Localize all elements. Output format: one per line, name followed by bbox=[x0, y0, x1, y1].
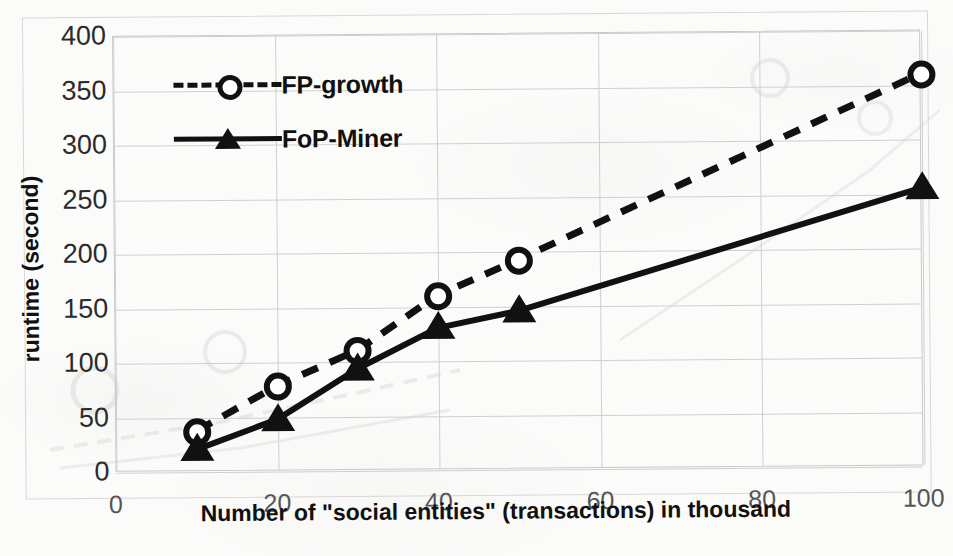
legend-symbol-solid-triangle-icon bbox=[174, 124, 282, 155]
data-point-fop-miner bbox=[341, 352, 375, 380]
data-point-fop-miner bbox=[261, 403, 295, 431]
legend-label-fop-miner: FoP-Miner bbox=[282, 123, 403, 153]
data-point-fop-miner bbox=[421, 311, 455, 339]
y-axis-tick-label: 300 bbox=[62, 131, 107, 158]
data-point-fp-growth bbox=[505, 246, 533, 274]
y-axis-tick-label: 250 bbox=[62, 186, 107, 213]
data-point-fp-growth bbox=[263, 372, 291, 400]
y-axis-tick-label: 100 bbox=[63, 349, 108, 376]
y-axis-tick-label: 50 bbox=[79, 404, 109, 431]
y-axis-tick-label: 200 bbox=[63, 240, 108, 267]
legend-label-fp-growth: FP-growth bbox=[281, 69, 403, 99]
y-axis-title: runtime (second) bbox=[17, 154, 46, 384]
legend-item-fop-miner[interactable]: FoP-Miner bbox=[174, 110, 504, 167]
legend-symbol-dashed-circle-icon bbox=[173, 70, 281, 101]
x-axis-tick-label: 100 bbox=[903, 485, 945, 510]
y-axis-tick-label: 400 bbox=[61, 22, 106, 49]
legend-item-fp-growth[interactable]: FP-growth bbox=[173, 56, 503, 113]
chart-legend: FP-growth FoP-Miner bbox=[173, 56, 504, 167]
plot-area: FP-growth FoP-Miner bbox=[112, 30, 923, 472]
y-axis-tick-label: 350 bbox=[61, 77, 106, 104]
data-point-fop-miner bbox=[502, 294, 536, 322]
data-point-fp-growth bbox=[907, 60, 935, 88]
x-axis-title: Number of "social entities" (transaction… bbox=[116, 495, 876, 528]
data-point-fop-miner bbox=[180, 433, 214, 461]
y-axis-tick-label: 150 bbox=[63, 295, 108, 322]
y-axis-tick-label: 0 bbox=[94, 458, 109, 485]
data-point-fp-growth bbox=[424, 282, 452, 310]
runtime-comparison-chart: 050100150200250300350400 FP-growth FoP-M… bbox=[0, 0, 953, 556]
data-point-fop-miner bbox=[905, 171, 939, 199]
